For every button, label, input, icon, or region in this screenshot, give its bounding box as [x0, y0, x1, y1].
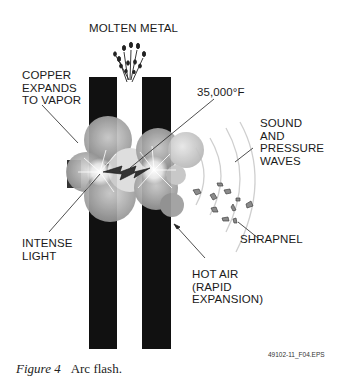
caption-text: Arc flash.	[71, 361, 122, 376]
label-copper-vapor: COPPER EXPANDS TO VAPOR	[22, 69, 81, 107]
arc-flash-diagram	[0, 0, 344, 389]
leader-copper	[42, 105, 78, 143]
figure-number: Figure 4	[16, 361, 61, 376]
label-hot-air: HOT AIR (RAPID EXPANSION)	[192, 268, 263, 306]
molten-metal-droplets	[114, 42, 146, 82]
label-molten-metal: MOLTEN METAL	[89, 22, 178, 35]
label-sound-waves: SOUND AND PRESSURE WAVES	[260, 117, 324, 167]
label-temperature: 35,000°F	[197, 86, 245, 99]
file-id: 49102-11_F04.EPS	[268, 351, 325, 358]
leader-hot-air	[176, 226, 205, 258]
figure-caption: Figure 4Arc flash.	[16, 361, 122, 377]
leader-sound	[235, 148, 253, 162]
label-intense-light: INTENSE LIGHT	[22, 237, 73, 262]
label-shrapnel: SHRAPNEL	[240, 233, 303, 246]
